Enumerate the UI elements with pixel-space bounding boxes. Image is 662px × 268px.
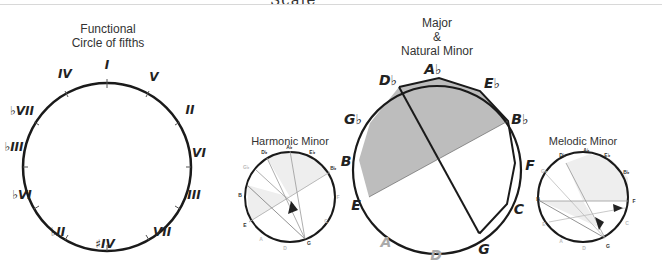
harmonic-label-G: G — [307, 240, 311, 246]
functional-label-VII: VII — [153, 225, 172, 239]
functional-circle: I V II VI III VII ♯IV ♭II ♭VI ♭III ♭VII … — [4, 58, 206, 251]
functional-label-III: III — [187, 188, 201, 202]
major-label-F: F — [525, 157, 535, 173]
harmonic-label-D: D — [283, 245, 287, 251]
major-label-Ab: A♭ — [423, 61, 441, 77]
major-circle: A♭ E♭ B♭ F C G D A E B G♭ D♭ — [341, 61, 536, 263]
functional-label-VI: VI — [192, 146, 206, 160]
melodic-label-Ab: A♭ — [583, 147, 590, 153]
functional-label-IV: IV — [58, 67, 73, 81]
melodic-label-A: A — [559, 238, 563, 244]
major-label-B: B — [341, 153, 352, 169]
functional-label-II: II — [186, 103, 195, 117]
melodic-label-G: G — [606, 243, 610, 249]
melodic-label-F: F — [632, 198, 635, 204]
functional-label-I: I — [105, 58, 110, 72]
melodic-label-Gb: G♭ — [541, 168, 548, 174]
functional-label-flatIII: ♭III — [4, 140, 24, 154]
harmonic-label-B: B — [238, 192, 242, 198]
harmonic-label-C: C — [324, 218, 328, 224]
melodic-label-Bb: B♭ — [623, 169, 630, 175]
harmonic-label-Gb: G♭ — [243, 164, 250, 170]
major-label-C: C — [514, 201, 525, 217]
harmonic-label-A: A — [259, 236, 263, 242]
major-label-D: D — [430, 247, 442, 263]
harmonic-label-F: F — [336, 194, 339, 200]
functional-label-flatVII: ♭VII — [10, 104, 34, 118]
functional-label-sharpIV: ♯IV — [95, 237, 116, 251]
melodic-circle: A♭ E♭ B♭ F C G D A E B G♭ D♭ — [536, 147, 635, 251]
harmonic-label-Eb: E♭ — [309, 149, 315, 155]
major-label-Gb: G♭ — [344, 111, 362, 127]
harmonic-label-Db: D♭ — [261, 149, 268, 155]
functional-label-flatVI: ♭VI — [12, 188, 32, 202]
major-label-Bb: B♭ — [511, 111, 528, 127]
diagram-canvas: I V II VI III VII ♯IV ♭II ♭VI ♭III ♭VII … — [0, 0, 662, 268]
melodic-label-D: D — [582, 245, 586, 251]
harmonic-label-Bb: B♭ — [330, 165, 337, 171]
functional-label-V: V — [149, 70, 160, 84]
melodic-label-Db: D♭ — [559, 152, 566, 158]
major-label-Db: D♭ — [379, 72, 397, 88]
melodic-label-Eb: E♭ — [604, 152, 610, 158]
melodic-label-B: B — [536, 196, 540, 202]
functional-label-flatII: ♭II — [51, 225, 66, 239]
major-label-A: A — [380, 234, 392, 250]
major-label-G: G — [478, 241, 490, 257]
harmonic-label-Ab: A♭ — [286, 144, 293, 150]
major-label-Eb: E♭ — [484, 75, 500, 91]
harmonic-circle: A♭ E♭ B♭ F C G D A E B G♭ D♭ — [238, 144, 339, 251]
harmonic-label-E: E — [243, 222, 247, 228]
melodic-label-C: C — [625, 220, 629, 226]
major-label-E: E — [351, 197, 361, 213]
